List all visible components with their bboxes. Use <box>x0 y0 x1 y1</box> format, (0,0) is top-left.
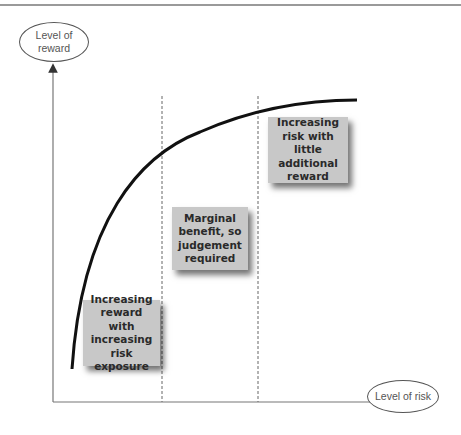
zone-box-increasing-reward: Increasing reward with increasing risk e… <box>83 300 160 366</box>
y-axis-label: Level of reward <box>19 22 89 62</box>
x-axis-label: Level of risk <box>367 380 439 413</box>
zone-box-increasing-risk: Increasing risk with little additional r… <box>268 117 348 183</box>
zone-box-marginal-benefit: Marginal benefit, so judgement required <box>172 207 248 270</box>
